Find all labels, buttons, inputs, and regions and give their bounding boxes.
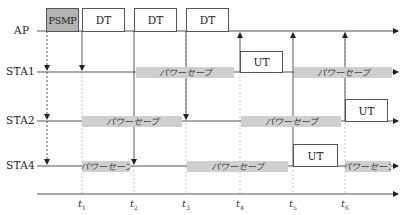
dt-frame-1: DT xyxy=(82,8,125,32)
power-save-sta4-c: パワーセーブ xyxy=(345,161,391,172)
time-label-t4: t4 xyxy=(236,198,244,211)
ut-frame-sta1: UT xyxy=(240,51,283,73)
time-label-t6: t6 xyxy=(341,198,349,211)
power-save-sta2-b: パワーセーブ xyxy=(241,116,341,127)
time-label-t3: t3 xyxy=(182,198,190,211)
power-save-sta1-a: パワーセーブ xyxy=(136,67,234,78)
row-label-sta1: STA1 xyxy=(6,65,35,77)
time-label-t1: t1 xyxy=(78,198,86,211)
dt-frame-3: DT xyxy=(186,8,229,32)
power-save-sta4-a: パワーセーブ xyxy=(82,161,130,172)
time-label-t2: t2 xyxy=(130,198,138,211)
ut-frame-sta2: UT xyxy=(345,99,388,122)
power-save-sta2-a: パワーセーブ xyxy=(82,116,182,127)
ut-frame-sta4: UT xyxy=(293,144,338,167)
power-save-sta4-b: パワーセーブ xyxy=(187,161,288,172)
psmp-timing-diagram: AP STA1 STA2 STA4 PSMP DT DT DT UT UT UT… xyxy=(0,0,411,215)
row-label-sta4: STA4 xyxy=(6,159,35,171)
psmp-frame: PSMP xyxy=(46,8,79,32)
dt-downlink-arrows xyxy=(82,31,186,164)
power-save-sta1-b: パワーセーブ xyxy=(294,67,392,78)
dt-frame-2: DT xyxy=(134,8,177,32)
row-label-sta2: STA2 xyxy=(6,114,35,126)
time-label-t5: t5 xyxy=(289,198,297,211)
row-label-ap: AP xyxy=(14,24,29,36)
